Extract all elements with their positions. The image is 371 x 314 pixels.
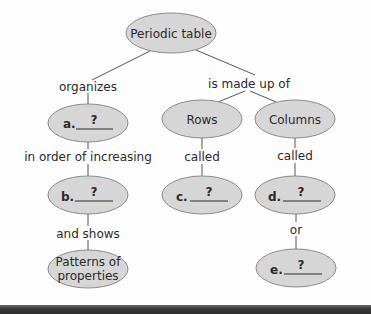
link-label-rows-called: called [184,150,220,164]
node-label-line2: properties [57,269,118,283]
link-label-made-up-of: is made up of [208,77,291,91]
concept-map-svg: Periodic table organizes is made up of i… [0,0,371,314]
blank-letter: d. [268,190,281,204]
concept-map: Periodic table organizes is made up of i… [0,0,371,314]
blank-answer: ? [206,185,213,199]
link-label-in-order-of: in order of increasing [24,150,152,164]
blank-letter: c. [176,190,188,204]
line-madeup-columns [250,91,276,102]
node-a: a. ? [48,104,128,142]
link-label-and-shows: and shows [56,227,120,241]
blank-letter: a. [63,117,76,131]
blank-letter: e. [270,263,283,277]
blank-answer: ? [298,258,305,272]
node-columns: Columns [255,100,335,138]
node-d: d. ? [255,176,335,214]
link-label-or: or [290,223,302,237]
node-label-line1: Patterns of [56,255,122,269]
line-madeup-rows [218,91,245,102]
node-periodic-table: Periodic table [126,13,216,53]
link-label-columns-called: called [277,149,313,163]
link-label-organizes: organizes [59,80,117,94]
node-rows: Rows [162,100,242,138]
blank-answer: ? [91,113,98,127]
node-ellipse [256,249,336,287]
blank-answer: ? [91,185,98,199]
node-label: Rows [186,113,217,127]
node-ellipse [255,176,335,214]
node-e: e. ? [256,249,336,287]
node-patterns-of-properties: Patterns of properties [48,250,128,288]
node-b: b. ? [48,176,128,214]
blank-letter: b. [61,190,74,204]
line-root-madeup [196,50,255,75]
blank-answer: ? [298,185,305,199]
node-ellipse [48,176,128,214]
node-ellipse [48,104,128,142]
bottom-bar [0,305,371,314]
node-label: Columns [269,113,321,127]
node-ellipse [162,176,242,214]
node-label: Periodic table [130,27,212,41]
node-c: c. ? [162,176,242,214]
line-root-organizes [92,51,150,80]
